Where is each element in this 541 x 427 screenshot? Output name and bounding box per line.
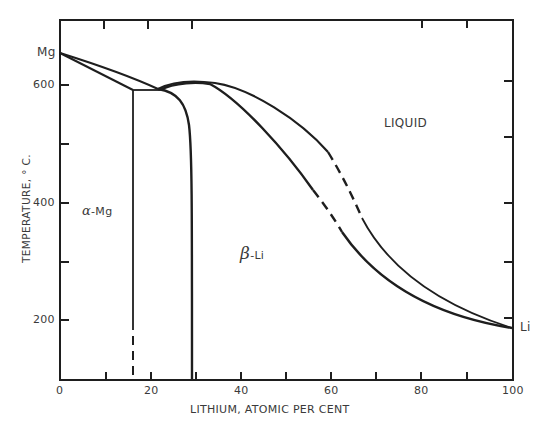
x-tick-60: 60 — [324, 384, 339, 397]
x-tick-0: 0 — [56, 384, 63, 397]
x-axis-label: LITHIUM, ATOMIC PER CENT — [190, 403, 350, 416]
beta-solidus-solid-lower — [342, 232, 512, 328]
beta-solidus-solid-upper — [160, 83, 313, 190]
region-label-liquid: LIQUID — [384, 116, 427, 130]
x-tick-20: 20 — [144, 384, 159, 397]
x-tick-40: 40 — [234, 384, 249, 397]
y-axis-right-ticks — [504, 81, 513, 318]
y-axis-ticks — [60, 85, 69, 320]
x-tick-80: 80 — [414, 384, 429, 397]
x-axis-ticks — [106, 372, 467, 380]
y-tick-600: 600 — [33, 78, 55, 91]
plot-frame — [60, 20, 513, 380]
alpha-suffix: -Mg — [91, 205, 112, 218]
mg-liquidus-curve — [60, 53, 158, 89]
y-axis-label: TEMPERATURE, ° C. — [20, 154, 32, 263]
beta-solidus-dashed — [313, 190, 342, 232]
x-axis-top-ticks — [104, 20, 467, 29]
alpha-symbol: α — [82, 203, 91, 218]
beta-symbol: β — [240, 243, 250, 263]
y-tick-200: 200 — [33, 313, 55, 326]
li-end-label: Li — [520, 320, 531, 334]
beta-suffix: -Li — [250, 249, 264, 262]
beta-liquidus-solid-upper — [158, 82, 328, 152]
beta-solvus-curve — [158, 89, 192, 380]
region-label-beta-li: β-Li — [240, 243, 264, 263]
beta-liquidus-dashed — [328, 152, 362, 218]
x-tick-100: 100 — [502, 384, 524, 397]
beta-liquidus-solid-lower — [362, 218, 512, 328]
mg-solidus-line — [60, 53, 133, 90]
mg-end-label: Mg — [37, 45, 56, 59]
region-label-alpha-mg: α-Mg — [82, 203, 112, 218]
y-tick-400: 400 — [33, 196, 55, 209]
